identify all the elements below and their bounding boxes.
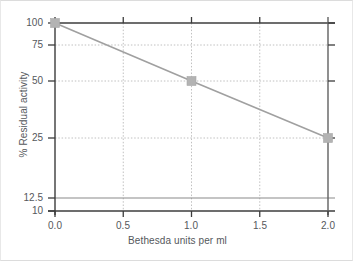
xtick-label-0-0: 0.0 [35,220,75,231]
top-axis-ticks [123,17,260,23]
x-axis-title: Bethesda units per ml [1,235,353,246]
ytick-label-100: 100 [3,17,43,28]
right-axis-ticks [328,23,335,138]
x-axis-ticks [55,211,328,217]
xtick-label-1-5: 1.5 [240,220,280,231]
y-axis-ticks [48,23,55,211]
data-point-marker [51,19,60,28]
xtick-label-0-5: 0.5 [103,220,143,231]
vertical-gridlines [123,23,260,211]
xtick-label-2-0: 2.0 [308,220,348,231]
data-point-marker [324,134,333,143]
xtick-label-1-0: 1.0 [171,220,211,231]
y-axis-title: % Residual activity [18,35,29,195]
data-point-marker [187,77,196,86]
horizontal-gridlines [55,45,328,138]
ytick-label-10: 10 [3,205,43,216]
chart-figure: 100 75 50 25 12.5 10 0.0 0.5 1.0 1.5 2.0… [0,0,353,261]
